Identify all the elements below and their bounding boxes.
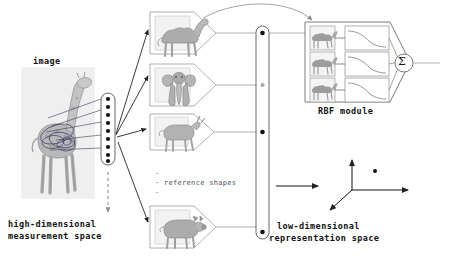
summation-symbol: Σ [398,55,406,68]
representation-space-label: representation space [269,233,379,244]
curved-arrow-to-rbf [203,4,312,20]
high-dimensional-label: high-dimensional [8,219,96,230]
capsule-to-shapes-arrows [116,30,148,222]
representation-point [373,169,377,173]
low-dimensional-axes [330,160,408,210]
rbf-rows [310,26,389,102]
high-dimensional-capsule [101,93,115,165]
reference-ellipsis-bottom: · [155,189,160,197]
reference-shapes-label: · reference shapes [155,179,236,187]
reference-ellipsis-top: · [155,170,160,178]
input-image-panel [22,68,94,198]
image-label: image [33,56,61,67]
representation-capsule [256,26,269,239]
rbf-module-label: RBF module [318,106,373,117]
shapes-to-representation-lines [214,33,256,227]
low-dimensional-label: low-dimensional [277,221,360,232]
measurement-space-label: measurement space [8,231,102,242]
